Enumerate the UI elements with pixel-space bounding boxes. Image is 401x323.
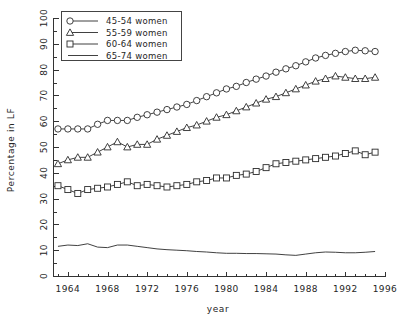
data-point — [371, 74, 378, 80]
series-55-59-women — [54, 72, 378, 166]
data-point — [85, 187, 91, 193]
data-point — [104, 143, 111, 149]
x-tick-label: 1968 — [95, 284, 120, 294]
data-point — [193, 121, 200, 127]
series-line — [58, 244, 375, 256]
data-point — [273, 69, 279, 75]
legend-label: 65-74 women — [106, 51, 168, 61]
data-point — [263, 73, 269, 79]
data-point — [303, 157, 309, 163]
data-point — [144, 112, 150, 118]
data-point — [273, 161, 279, 167]
x-tick-label: 1964 — [56, 284, 81, 294]
y-tick-label: 30 — [39, 192, 49, 204]
data-point — [283, 66, 289, 72]
data-point — [114, 117, 120, 123]
data-point — [144, 181, 150, 187]
data-point — [352, 47, 358, 53]
data-point — [105, 184, 111, 190]
data-point — [54, 160, 61, 166]
x-axis-ticks — [59, 272, 386, 277]
data-point — [174, 183, 180, 189]
x-tick-label: 1980 — [214, 284, 239, 294]
x-tick-label: 1984 — [254, 284, 279, 294]
x-tick-label: 1976 — [175, 284, 200, 294]
data-point — [94, 149, 101, 155]
legend-marker — [67, 18, 73, 24]
data-point — [194, 179, 200, 185]
data-point — [114, 138, 121, 144]
legend-label: 55-59 women — [106, 28, 168, 38]
chart-legend: 45-54 women55-59 women60-64 women65-74 w… — [61, 11, 181, 61]
y-tick-label: 80 — [39, 63, 49, 75]
data-point — [352, 148, 358, 154]
legend-label: 60-64 women — [106, 39, 168, 49]
x-axis-tick-labels: 196419681972197619801984198819921996 — [56, 284, 398, 294]
data-point — [124, 117, 130, 123]
data-point — [153, 136, 160, 142]
data-point — [323, 154, 329, 160]
data-point — [75, 190, 81, 196]
data-point — [184, 101, 190, 107]
data-point — [253, 100, 260, 106]
data-point — [174, 104, 180, 110]
data-point — [233, 107, 240, 113]
data-point — [302, 81, 309, 87]
data-point — [233, 83, 239, 89]
y-axis-tick-labels: 0102030405060708090100 — [39, 9, 49, 279]
x-tick-label: 1972 — [135, 284, 160, 294]
data-point — [272, 93, 279, 99]
data-point — [203, 93, 209, 99]
data-point — [223, 86, 229, 92]
data-point — [332, 50, 338, 56]
series-layer — [54, 47, 378, 255]
data-point — [293, 63, 299, 69]
data-point — [164, 184, 170, 190]
data-point — [253, 76, 259, 82]
y-axis-title: Percentage in LF — [6, 108, 16, 192]
data-point — [312, 55, 318, 61]
data-point — [154, 183, 160, 189]
data-point — [124, 179, 130, 185]
y-axis-ticks — [54, 19, 59, 277]
data-point — [203, 118, 210, 124]
data-point — [253, 169, 259, 175]
data-point — [243, 171, 249, 177]
data-point — [293, 158, 299, 164]
data-point — [283, 159, 289, 165]
data-point — [223, 175, 229, 181]
data-point — [332, 72, 339, 78]
data-point — [114, 181, 120, 187]
data-point — [65, 126, 71, 132]
data-point — [372, 149, 378, 155]
y-tick-label: 20 — [39, 218, 49, 230]
x-tick-label: 1988 — [293, 284, 318, 294]
data-point — [173, 128, 180, 134]
data-point — [164, 106, 170, 112]
data-point — [362, 48, 368, 54]
data-point — [214, 175, 220, 181]
y-tick-label: 100 — [39, 9, 49, 27]
data-point — [134, 114, 140, 120]
y-tick-label: 60 — [39, 115, 49, 127]
y-tick-label: 90 — [39, 38, 49, 50]
x-tick-label: 1992 — [333, 284, 358, 294]
data-point — [55, 126, 61, 132]
data-point — [313, 156, 319, 162]
data-point — [84, 126, 90, 132]
data-point — [163, 132, 170, 138]
data-point — [213, 90, 219, 96]
data-point — [243, 79, 249, 85]
data-point — [75, 126, 81, 132]
series-65-74-women — [58, 244, 375, 256]
data-point — [243, 103, 250, 109]
legend-label: 45-54 women — [106, 16, 168, 26]
data-point — [332, 153, 338, 159]
data-point — [184, 181, 190, 187]
data-point — [342, 150, 348, 156]
data-point — [65, 187, 71, 193]
data-point — [362, 152, 368, 158]
y-tick-label: 40 — [39, 167, 49, 179]
data-point — [204, 178, 210, 184]
series-60-64-women — [55, 148, 378, 197]
